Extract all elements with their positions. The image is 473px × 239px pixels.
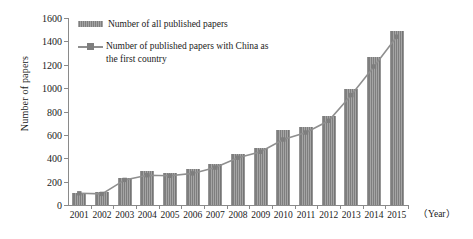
line-marker <box>395 35 399 39</box>
line-marker <box>100 192 104 196</box>
x-axis-tick <box>385 205 386 209</box>
x-axis-tick-label: 2011 <box>297 210 316 220</box>
y-axis-tick-label: 1400 <box>42 36 62 47</box>
x-axis-tick <box>227 205 228 209</box>
legend-item-line: Number of published papers with China as… <box>78 40 269 66</box>
y-axis-tick-label: 400 <box>47 153 62 164</box>
y-axis-tick-label: 0 <box>57 200 62 211</box>
x-axis-tick <box>408 205 409 209</box>
x-axis-tick-label: 2007 <box>206 210 225 220</box>
y-axis-tick <box>64 205 68 206</box>
x-axis-tick-label: 2006 <box>183 210 202 220</box>
line-marker <box>236 156 240 160</box>
x-axis-tick-label: 2010 <box>274 210 293 220</box>
line-marker <box>77 191 81 195</box>
x-axis-tick-label: 2015 <box>387 210 406 220</box>
legend-item-bars: Number of all published papers <box>78 18 269 31</box>
x-axis-tick-label: 2009 <box>251 210 270 220</box>
legend-item-label: Number of all published papers <box>108 18 228 31</box>
line-marker <box>168 174 172 178</box>
x-axis-tick <box>272 205 273 209</box>
y-axis-tick-label: 600 <box>47 129 62 140</box>
x-axis-tick-label: 2008 <box>229 210 248 220</box>
line-marker <box>281 137 285 141</box>
y-axis-tick-label: 1000 <box>42 83 62 94</box>
x-axis-tick <box>181 205 182 209</box>
line-marker-swatch-icon <box>78 42 103 51</box>
x-axis-tick <box>204 205 205 209</box>
x-axis-tick <box>113 205 114 209</box>
y-axis-tick-label: 1200 <box>42 59 62 70</box>
y-axis-tick-label: 1600 <box>42 13 62 24</box>
x-axis-line <box>68 205 408 206</box>
y-axis-tick-label: 200 <box>47 176 62 187</box>
line-marker <box>372 64 376 68</box>
x-axis-tick-label: 2002 <box>93 210 112 220</box>
x-axis-tick <box>91 205 92 209</box>
x-axis-tick <box>363 205 364 209</box>
bar-swatch-icon <box>78 21 103 27</box>
x-axis-tick-label: 2003 <box>115 210 134 220</box>
x-axis-tick <box>159 205 160 209</box>
x-axis-tick <box>340 205 341 209</box>
x-axis-tick-label: 2012 <box>319 210 338 220</box>
x-axis-tick <box>317 205 318 209</box>
y-axis-title: Number of papers <box>19 29 30 159</box>
y-axis-tick-label: 800 <box>47 106 62 117</box>
x-axis-tick-label: 2004 <box>138 210 157 220</box>
x-axis-tick <box>295 205 296 209</box>
line-marker <box>349 93 353 97</box>
line-marker <box>327 119 331 123</box>
line-marker <box>213 165 217 169</box>
legend-item-label: Number of published papers with China as… <box>106 40 269 66</box>
x-axis-tick-label: 2014 <box>365 210 384 220</box>
line-marker <box>304 130 308 134</box>
line-marker <box>123 178 127 182</box>
line-marker <box>191 171 195 175</box>
chart-figure: Number of papers （Year） 0200400600800100… <box>0 0 473 239</box>
line-marker <box>259 150 263 154</box>
x-axis-tick-label: 2013 <box>342 210 361 220</box>
x-axis-tick <box>249 205 250 209</box>
line-marker <box>145 173 149 177</box>
x-axis-tick <box>136 205 137 209</box>
x-axis-unit-label: （Year） <box>418 206 456 220</box>
x-axis-tick-label: 2001 <box>70 210 89 220</box>
chart-legend: Number of all published papers Number of… <box>78 18 269 75</box>
x-axis-tick-label: 2005 <box>161 210 180 220</box>
